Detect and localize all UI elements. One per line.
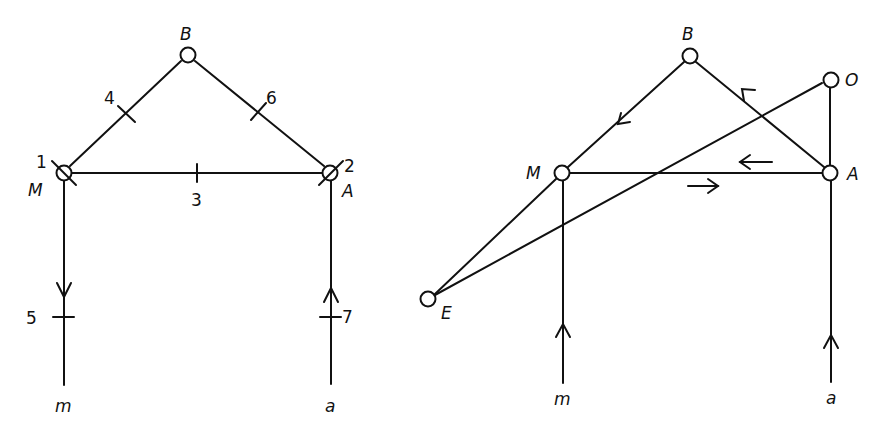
edge-M-E xyxy=(435,179,556,294)
label-E: E xyxy=(441,303,452,323)
arrow-B-to-M-icon xyxy=(618,113,630,124)
label-a: a xyxy=(826,388,836,408)
label-6: 6 xyxy=(266,88,277,108)
label-m: m xyxy=(55,396,72,416)
label-4: 4 xyxy=(104,88,115,108)
tick-4 xyxy=(118,106,135,122)
label-1: 1 xyxy=(36,152,47,172)
label-A: A xyxy=(341,181,354,201)
node-B xyxy=(181,48,196,63)
label-5: 5 xyxy=(26,308,37,328)
node-M xyxy=(555,166,570,181)
node-O xyxy=(824,73,839,88)
right-diagram: B M A O E m a xyxy=(421,24,859,409)
edge-B-A xyxy=(195,61,324,166)
edge-B-M xyxy=(568,62,684,167)
edge-B-A xyxy=(696,62,824,167)
label-A: A xyxy=(846,164,859,184)
node-A xyxy=(823,166,838,181)
arrow-A-to-B-icon xyxy=(742,89,755,101)
label-7: 7 xyxy=(342,307,353,327)
label-M: M xyxy=(526,163,541,183)
diagram-canvas: B 1 M 2 A 3 4 5 6 7 m a xyxy=(0,0,886,434)
edge-O-E xyxy=(435,83,822,295)
label-m: m xyxy=(554,389,571,409)
label-3: 3 xyxy=(191,190,202,210)
node-E xyxy=(421,292,436,307)
label-M: M xyxy=(28,180,43,200)
label-B: B xyxy=(180,24,192,44)
label-B: B xyxy=(682,24,694,44)
node-B xyxy=(683,49,698,64)
label-2: 2 xyxy=(344,156,355,176)
label-a: a xyxy=(325,396,335,416)
left-diagram: B 1 M 2 A 3 4 5 6 7 m a xyxy=(26,24,355,416)
label-O: O xyxy=(845,70,858,90)
